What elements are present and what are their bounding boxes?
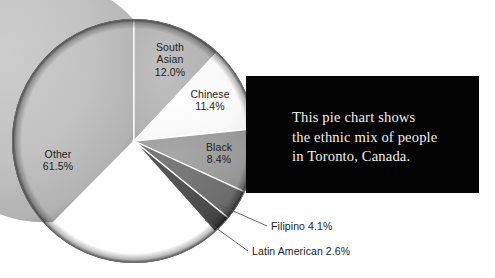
pie-chart-figure: South Asian 12.0% Chinese 11.4% Black 8.… bbox=[0, 0, 495, 278]
caption-line-1: This pie chart shows bbox=[292, 108, 472, 128]
slice-label-black-value: 8.4% bbox=[193, 153, 245, 165]
slice-label-other: Other 61.5% bbox=[32, 148, 84, 173]
slice-label-chinese-line1: Chinese bbox=[180, 88, 240, 100]
slice-label-chinese-value: 11.4% bbox=[180, 100, 240, 112]
callout-label-filipino: Filipino 4.1% bbox=[271, 220, 332, 232]
slice-label-chinese: Chinese 11.4% bbox=[180, 88, 240, 113]
slice-label-south-asian-value: 12.0% bbox=[143, 66, 197, 78]
leader-line-latin-american bbox=[205, 220, 248, 251]
slice-label-south-asian-line2: Asian bbox=[143, 53, 197, 65]
caption-panel: This pie chart shows the ethnic mix of p… bbox=[246, 76, 479, 193]
slice-label-black: Black 8.4% bbox=[193, 141, 245, 166]
callout-label-latin-american: Latin American 2.6% bbox=[252, 245, 350, 257]
slice-label-south-asian: South Asian 12.0% bbox=[143, 41, 197, 78]
slice-label-south-asian-line1: South bbox=[143, 41, 197, 53]
caption-text: This pie chart shows the ethnic mix of p… bbox=[292, 108, 472, 167]
caption-line-3: in Toronto, Canada. bbox=[292, 147, 472, 167]
slice-label-other-value: 61.5% bbox=[32, 160, 84, 172]
caption-line-2: the ethnic mix of people bbox=[292, 128, 472, 148]
slice-label-black-line1: Black bbox=[193, 141, 245, 153]
pie-slices bbox=[0, 0, 256, 263]
slice-label-other-line1: Other bbox=[32, 148, 84, 160]
